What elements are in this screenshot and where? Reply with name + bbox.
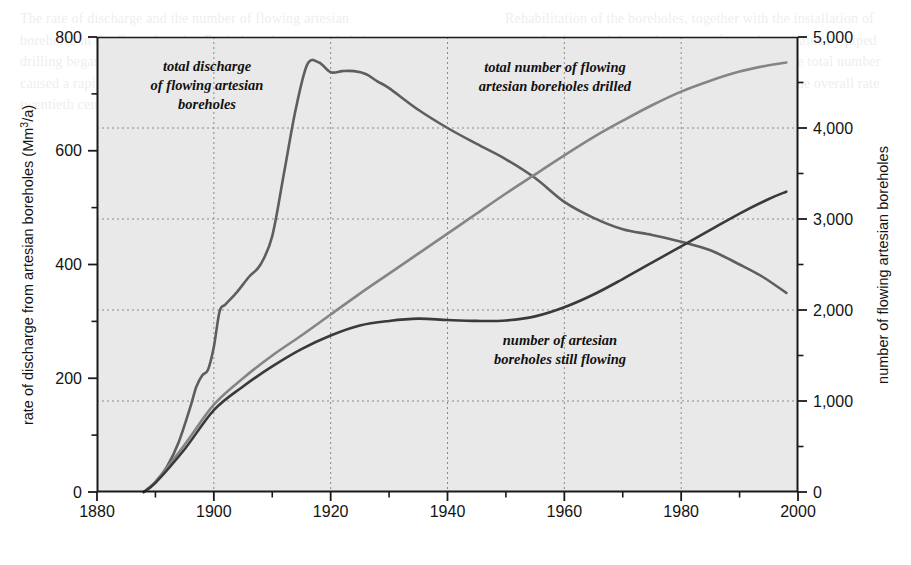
tick-label: 0 bbox=[813, 484, 822, 501]
tick-label: 1900 bbox=[196, 503, 232, 520]
right-axis-tick-labels: 01,0002,0003,0004,0005,000 bbox=[813, 29, 853, 501]
tick-label: 1980 bbox=[663, 503, 699, 520]
annotation-line: artesian boreholes drilled bbox=[479, 78, 632, 94]
tick-label: 5,000 bbox=[813, 29, 853, 46]
annotation-line: of flowing artesian bbox=[151, 77, 264, 93]
right-axis-title: number of flowing artesian boreholes bbox=[875, 146, 891, 384]
tick-label: 1,000 bbox=[813, 393, 853, 410]
tick-label: 0 bbox=[73, 484, 82, 501]
tick-label: 800 bbox=[55, 29, 82, 46]
tick-label: 600 bbox=[55, 142, 82, 159]
tick-label: 3,000 bbox=[813, 211, 853, 228]
tick-label: 1920 bbox=[313, 503, 349, 520]
tick-label: 1960 bbox=[547, 503, 583, 520]
annotation-line: boreholes bbox=[178, 96, 236, 112]
tick-label: 2000 bbox=[780, 503, 816, 520]
svg-text:rate of discharge from artesia: rate of discharge from artesian borehole… bbox=[18, 105, 36, 425]
tick-label: 1880 bbox=[79, 503, 115, 520]
annotation-line: total number of flowing bbox=[484, 59, 625, 75]
annotation-line: total discharge bbox=[163, 58, 252, 74]
bottom-axis-ticks bbox=[97, 492, 798, 501]
right-axis-ticks bbox=[798, 37, 807, 492]
tick-label: 200 bbox=[55, 370, 82, 387]
chart-figure: 0200400600800 01,0002,0003,0004,0005,000… bbox=[0, 0, 911, 565]
annotation-line: boreholes still flowing bbox=[494, 351, 626, 367]
bottom-axis-tick-labels: 1880190019201940196019802000 bbox=[79, 503, 816, 520]
left-axis-title-text: rate of discharge from artesian borehole… bbox=[20, 128, 36, 425]
annotation-line: number of artesian bbox=[503, 332, 617, 348]
tick-label: 4,000 bbox=[813, 120, 853, 137]
left-axis-ticks bbox=[88, 37, 97, 492]
tick-label: 2,000 bbox=[813, 302, 853, 319]
tick-label: 1940 bbox=[430, 503, 466, 520]
left-axis-tick-labels: 0200400600800 bbox=[55, 29, 82, 501]
left-axis-title-tail: /a) bbox=[20, 105, 36, 122]
tick-label: 400 bbox=[55, 256, 82, 273]
left-axis-title: rate of discharge from artesian borehole… bbox=[18, 105, 36, 425]
